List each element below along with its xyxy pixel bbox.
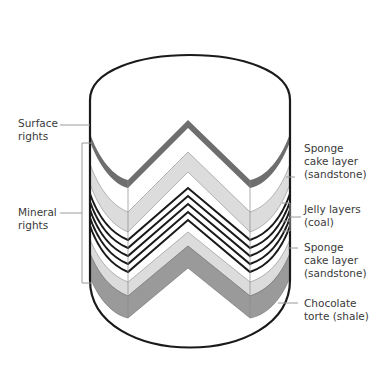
label-sponge-top: Sponge cake layer (sandstone): [304, 142, 367, 181]
label-chocolate-shale: Chocolate torte (shale): [304, 297, 369, 323]
label-mineral-rights: Mineral rights: [18, 206, 57, 232]
label-jelly-coal: Jelly layers (coal): [304, 203, 361, 229]
label-sponge-bottom: Sponge cake layer (sandstone): [304, 241, 367, 280]
label-surface-rights: Surface rights: [18, 117, 58, 143]
left-leaders: [60, 125, 92, 283]
cake-strata-diagram: Surface rights Mineral rights Sponge cak…: [0, 0, 374, 365]
